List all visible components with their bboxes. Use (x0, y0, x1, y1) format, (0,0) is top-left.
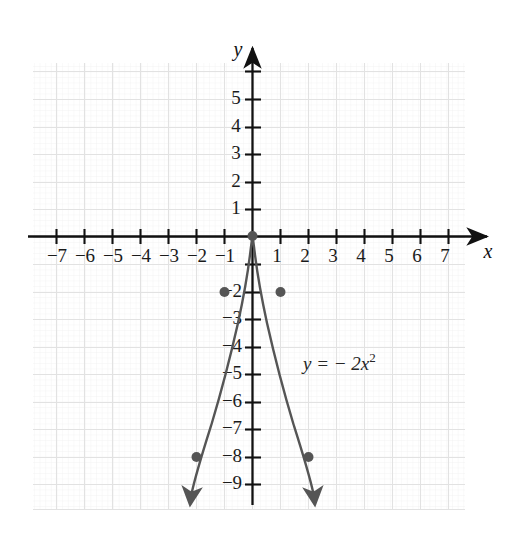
x-tick-label: −7 (47, 245, 67, 266)
y-tick-label: 5 (231, 87, 241, 108)
minor-grid (33, 63, 465, 510)
data-point (220, 287, 230, 297)
x-tick-label: 7 (440, 245, 450, 266)
data-point (192, 452, 202, 462)
x-tick-label: −5 (103, 245, 123, 266)
graph-figure: −7 −6 −5 −4 −3 −2 −1 1 2 3 4 5 6 7 5 4 3… (0, 0, 515, 538)
curve-arrow-right (313, 491, 314, 504)
y-tick-label: 2 (231, 170, 241, 191)
data-point (248, 231, 258, 241)
x-tick-label: −4 (131, 245, 152, 266)
x-tick-label: 3 (328, 245, 338, 266)
y-tick-label: −9 (222, 472, 242, 493)
coordinate-plane-chart: −7 −6 −5 −4 −3 −2 −1 1 2 3 4 5 6 7 5 4 3… (0, 0, 515, 538)
x-tick-label: −3 (159, 245, 179, 266)
y-tick-label: −6 (222, 390, 242, 411)
data-point (276, 287, 286, 297)
x-tick-label: −6 (75, 245, 95, 266)
equation-annotation: y = − 2x2 (301, 350, 376, 374)
y-tick-label: −8 (222, 445, 242, 466)
x-tick-label: 2 (300, 245, 310, 266)
x-tick-label: 5 (384, 245, 394, 266)
equation-exponent: 2 (369, 350, 376, 365)
x-tick-label: 1 (272, 245, 282, 266)
x-tick-label: −2 (187, 245, 207, 266)
equation-label: y = − 2x (301, 353, 370, 374)
data-point (304, 452, 314, 462)
x-axis-label: x (483, 240, 493, 262)
x-tick-label: −1 (215, 245, 235, 266)
y-tick-label: 3 (231, 142, 241, 163)
grid-group (33, 63, 465, 510)
y-tick-label: 4 (231, 115, 241, 136)
curve-arrow-left (190, 491, 191, 504)
x-tick-label: 4 (356, 245, 366, 266)
y-axis-label: y (232, 38, 243, 61)
y-tick-label: −7 (222, 417, 242, 438)
svg-text:y = − 2x2: y = − 2x2 (301, 350, 376, 374)
x-tick-label: 6 (412, 245, 422, 266)
y-tick-label: 1 (231, 197, 241, 218)
